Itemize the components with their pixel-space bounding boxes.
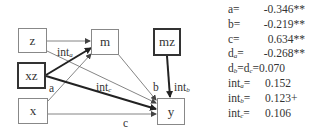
node-m: m: [91, 29, 119, 55]
node-label: m: [100, 34, 110, 50]
stat-value: -0.346**: [264, 2, 305, 17]
edge-m-y: [118, 54, 156, 100]
stat-value: 0.070: [259, 62, 285, 74]
stat-value: 0.152: [265, 76, 291, 91]
node-mz: mz: [153, 28, 181, 56]
stat-row-d-a: da= -0.268**: [228, 46, 323, 61]
stat-value: 0.106: [265, 106, 291, 121]
node-z: z: [18, 28, 47, 53]
stat-value: -0.268**: [264, 46, 305, 61]
path-diagram: z xz x m mz y inta a intc b intb c: [0, 0, 220, 134]
edge-label-int-c: intc: [96, 82, 111, 94]
stat-row-b: b= -0.219**: [228, 17, 323, 32]
stat-row-int-a: inta= 0.152: [228, 76, 323, 91]
coefficient-list: a= -0.346** b= -0.219** c= 0.634** da= -…: [228, 2, 323, 120]
stat-key: b=: [228, 17, 240, 32]
node-label: xz: [25, 68, 37, 84]
edge-label-int-b: intb: [174, 82, 190, 94]
stat-value: 0.123+: [265, 91, 297, 106]
stat-value: 0.634**: [268, 32, 305, 47]
node-label: x: [30, 103, 37, 119]
stat-row-int-c: intc= 0.106: [228, 106, 323, 121]
node-label: z: [30, 33, 36, 49]
edge-label-c: c: [123, 118, 128, 130]
stat-key: intc=: [228, 106, 250, 124]
stat-key: c=: [228, 32, 240, 47]
stat-value: -0.219**: [264, 17, 305, 32]
edge-label-b: b: [153, 82, 159, 94]
edge-label-a: a: [49, 83, 54, 95]
edge-mz-y: [167, 56, 170, 97]
stat-key: a=: [228, 2, 240, 17]
node-label: mz: [159, 34, 175, 50]
node-label: y: [168, 104, 175, 120]
stat-row-d-b-c: db=dc=0.070: [228, 61, 323, 76]
node-x: x: [18, 98, 48, 124]
stat-row-a: a= -0.346**: [228, 2, 323, 17]
stat-row-c: c= 0.634**: [228, 32, 323, 47]
node-xz: xz: [17, 62, 46, 89]
edge-label-int-a: inta: [57, 47, 73, 59]
node-y: y: [157, 98, 185, 125]
stat-row-int-b: intb= 0.123+: [228, 91, 323, 106]
